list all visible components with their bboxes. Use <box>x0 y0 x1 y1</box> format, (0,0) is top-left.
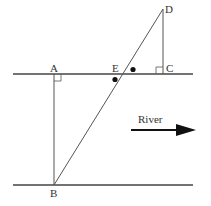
label-e: E <box>112 62 119 74</box>
label-c: C <box>166 62 173 74</box>
label-river: River <box>138 113 163 125</box>
angle-dot-right-icon <box>130 67 135 72</box>
river-diagram: A B C D E River <box>0 0 211 206</box>
label-a: A <box>50 62 58 74</box>
right-angle-a-icon <box>54 74 61 81</box>
label-d: D <box>165 3 173 15</box>
right-angle-c-icon <box>156 67 163 74</box>
river-arrow-head-icon <box>176 124 196 136</box>
label-b: B <box>50 187 57 199</box>
angle-dot-left-icon <box>112 77 117 82</box>
segment-bd <box>54 9 163 185</box>
